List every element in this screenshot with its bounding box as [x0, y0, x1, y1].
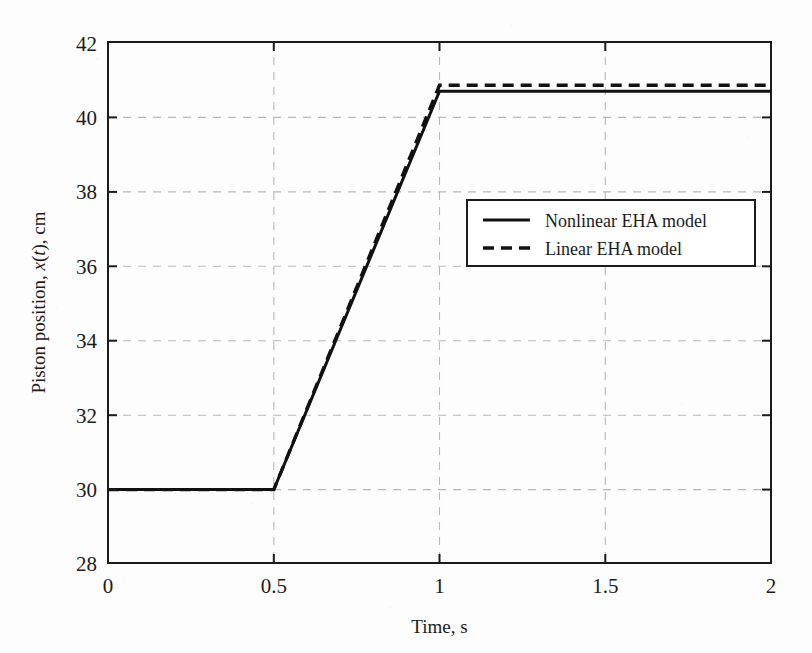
x-tick-label-2: 2: [766, 574, 777, 598]
y-axis-title-prefix: Piston position,: [28, 271, 49, 394]
y-tick-label-36: 36: [76, 255, 97, 279]
y-tick-label-34: 34: [76, 329, 98, 353]
figure-container: 28 30 32 34 36 38 40 42 0 0.5 1 1.5 2 Ti…: [0, 0, 812, 653]
y-tick-label-40: 40: [76, 106, 97, 130]
x-tick-label-1.5: 1.5: [592, 574, 618, 598]
x-tick-label-0: 0: [103, 574, 114, 598]
legend-label-nonlinear-eha-model: Nonlinear EHA model: [545, 211, 707, 231]
x-axis-title: Time, s: [411, 616, 467, 637]
y-axis-title: Piston position, x(t), cm: [28, 211, 50, 393]
y-tick-label-32: 32: [76, 404, 97, 428]
legend: Nonlinear EHA model Linear EHA model: [467, 200, 755, 266]
y-tick-label-42: 42: [76, 32, 97, 56]
svg-text:Piston position, x(t), cm: Piston position, x(t), cm: [28, 211, 50, 393]
y-tick-label-28: 28: [76, 552, 97, 576]
chart-svg: 28 30 32 34 36 38 40 42 0 0.5 1 1.5 2 Ti…: [0, 0, 812, 653]
x-tick-label-0.5: 0.5: [261, 574, 287, 598]
x-tick-labels: 0 0.5 1 1.5 2: [103, 574, 777, 598]
y-tick-labels: 28 30 32 34 36 38 40 42: [76, 32, 98, 576]
y-axis-title-suffix: ), cm: [28, 211, 50, 250]
y-tick-label-30: 30: [76, 478, 97, 502]
legend-label-linear-eha-model: Linear EHA model: [545, 239, 682, 259]
y-tick-label-38: 38: [76, 180, 97, 204]
grid-vertical: [274, 42, 606, 563]
x-tick-label-1: 1: [434, 574, 445, 598]
